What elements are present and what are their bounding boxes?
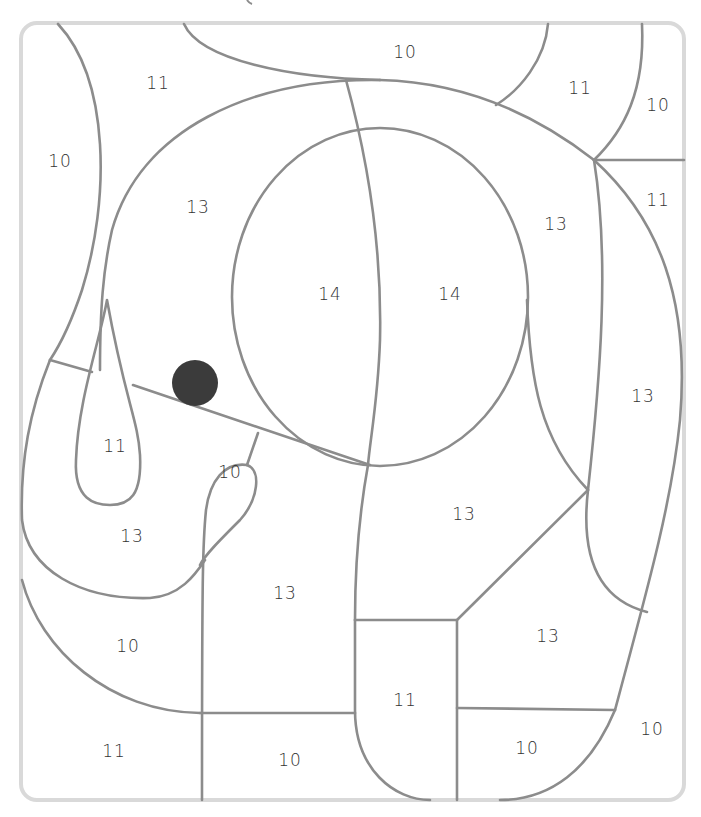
region-number[interactable]: 11 <box>393 690 417 710</box>
region-number[interactable]: 13 <box>452 504 476 524</box>
region-number[interactable]: 13 <box>273 583 297 603</box>
region-number[interactable]: 10 <box>515 738 539 758</box>
region-number[interactable]: 10 <box>48 151 72 171</box>
region-number[interactable]: 11 <box>102 741 126 761</box>
region-number[interactable]: 14 <box>438 284 462 304</box>
color-by-number-canvas: 11 10 11 10 10 13 13 11 14 14 13 11 10 1… <box>0 0 701 817</box>
puzzle-frame <box>21 23 684 800</box>
region-number[interactable]: 10 <box>640 719 664 739</box>
region-number[interactable]: 10 <box>116 636 140 656</box>
region-number[interactable]: 11 <box>646 190 670 210</box>
region-number[interactable]: 13 <box>536 626 560 646</box>
region-number[interactable]: 11 <box>103 436 127 456</box>
region-number[interactable]: 10 <box>278 750 302 770</box>
region-number[interactable]: 13 <box>544 214 568 234</box>
region-number[interactable]: 13 <box>186 197 210 217</box>
region-number[interactable]: 10 <box>218 462 242 482</box>
region-number[interactable]: 14 <box>318 284 342 304</box>
elephant-eye <box>172 360 218 406</box>
region-number[interactable]: 10 <box>646 95 670 115</box>
region-number[interactable]: 13 <box>631 386 655 406</box>
region-number[interactable]: 13 <box>120 526 144 546</box>
region-number[interactable]: 11 <box>568 78 592 98</box>
region-number[interactable]: 10 <box>393 42 417 62</box>
cropped-text-fragment <box>247 0 252 4</box>
region-number[interactable]: 11 <box>146 73 170 93</box>
